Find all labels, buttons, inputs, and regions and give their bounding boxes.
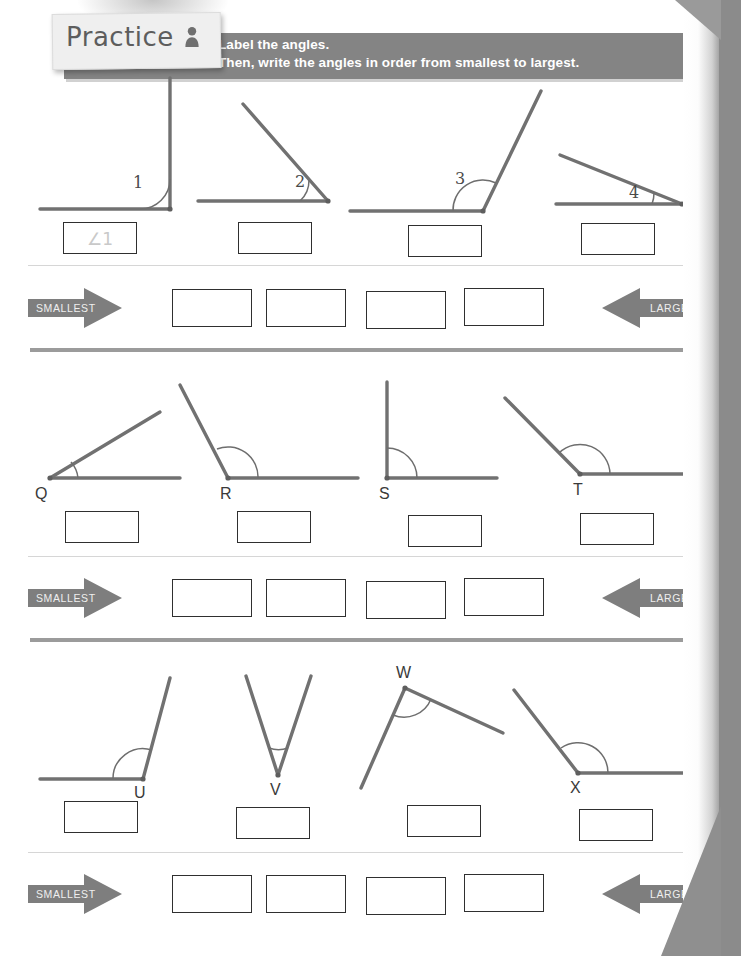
figure-label-Q: Q: [35, 485, 47, 503]
answer-box[interactable]: [65, 511, 139, 543]
answer-box[interactable]: [579, 809, 653, 841]
order-box[interactable]: [266, 289, 346, 327]
practice-label: Practice: [66, 22, 174, 52]
figure-label-2: 2: [295, 172, 305, 191]
angle-figure-S: [384, 382, 497, 481]
section-divider-1: [30, 348, 720, 352]
thin-rule-3: [28, 852, 718, 853]
largest-label: LARGEST: [650, 592, 703, 604]
figure-label-U: U: [134, 784, 146, 802]
answer-box[interactable]: [408, 225, 482, 257]
answer-box[interactable]: [581, 223, 655, 255]
figure-label-V: V: [270, 781, 281, 799]
section-divider-2: [30, 638, 720, 642]
figure-label-3: 3: [455, 169, 465, 188]
angle-figure-W: [361, 685, 503, 788]
answer-box[interactable]: [237, 511, 311, 543]
order-box[interactable]: [366, 877, 446, 915]
figure-label-4: 4: [629, 183, 639, 202]
smallest-label: SMALLEST: [36, 302, 96, 314]
angle-figure-4: [556, 155, 685, 207]
angle-figure-T: [505, 398, 690, 477]
largest-label: LARGEST: [650, 888, 703, 900]
instruction-line-1: Label the angles.: [218, 36, 698, 54]
order-box[interactable]: [172, 579, 252, 617]
figure-label-W: W: [396, 664, 411, 682]
order-box[interactable]: [464, 288, 544, 326]
person-icon: [184, 26, 200, 52]
answer-box[interactable]: [64, 801, 138, 833]
angle-figure-2: [198, 104, 331, 204]
page-spine-dark: [719, 0, 741, 956]
figure-label-1: 1: [133, 173, 143, 192]
page-spine-gradient: [683, 0, 741, 956]
answer-box[interactable]: [408, 515, 482, 547]
smallest-label: SMALLEST: [36, 888, 96, 900]
order-box[interactable]: [366, 291, 446, 329]
answer-box[interactable]: [238, 222, 312, 254]
angle-figure-U: [40, 678, 170, 782]
angle-figure-3: [350, 91, 541, 214]
smallest-label: SMALLEST: [36, 592, 96, 604]
instruction-text: Label the angles. Then, write the angles…: [218, 36, 698, 72]
figure-label-S: S: [379, 485, 390, 503]
answer-box[interactable]: ∠1: [63, 222, 137, 254]
answer-box[interactable]: [580, 513, 654, 545]
largest-label: LARGEST: [650, 302, 703, 314]
figure-label-R: R: [220, 485, 232, 503]
order-box[interactable]: [464, 578, 544, 616]
angle-figure-Q: [47, 412, 180, 481]
worksheet-page: Label the angles. Then, write the angles…: [0, 0, 741, 956]
figure-label-T: T: [573, 481, 583, 499]
angle-figure-R: [180, 385, 358, 481]
angle-figure-V: [246, 676, 311, 778]
angle-figure-1: [40, 78, 173, 212]
order-box[interactable]: [366, 581, 446, 619]
instruction-line-2: Then, write the angles in order from sma…: [218, 54, 698, 72]
order-box[interactable]: [172, 289, 252, 327]
figure-label-X: X: [570, 779, 581, 797]
order-box[interactable]: [172, 875, 252, 913]
order-box[interactable]: [266, 875, 346, 913]
thin-rule-1: [28, 265, 718, 266]
angle-figure-X: [514, 690, 690, 776]
thin-rule-2: [28, 556, 718, 557]
order-box[interactable]: [266, 579, 346, 617]
answer-box[interactable]: [407, 805, 481, 837]
answer-box[interactable]: [236, 807, 310, 839]
order-box[interactable]: [464, 874, 544, 912]
